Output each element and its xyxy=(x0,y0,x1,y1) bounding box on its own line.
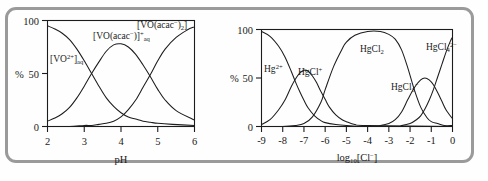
species-text-hgcl3-base: HgCl xyxy=(391,82,412,92)
species-text-vo2plus-base: [VO xyxy=(50,54,67,64)
x-axis-title-close: ] xyxy=(374,152,378,163)
xtick-label-3: 3 xyxy=(82,136,87,147)
curve-hgcl2 xyxy=(262,31,453,127)
chart-panel-vanadium: 100 50 0 % 2 3 4 5 6 pH [VO xyxy=(0,0,244,181)
species-text-hgcl2-sub: 2 xyxy=(381,48,384,55)
species-label-hgcl2: HgCl2 xyxy=(360,44,384,55)
ytick-label-50: 50 xyxy=(29,69,40,80)
ytick-label-100: 100 xyxy=(237,25,253,36)
xtick-label--6: -6 xyxy=(321,135,330,146)
xtick-label--7: -7 xyxy=(300,135,309,146)
ytick-label-0: 0 xyxy=(34,122,39,133)
x-axis-title: log10[Cl−] xyxy=(337,152,378,165)
species-label-vo-acac-2: [VO(acac−)2] xyxy=(137,19,187,32)
ytick-label-0: 0 xyxy=(248,122,253,133)
xtick-label--3: -3 xyxy=(384,135,393,146)
species-text-hgcl4-base: HgCl xyxy=(426,42,447,52)
species-text-hgcl2-base: HgCl xyxy=(360,44,381,54)
species-text-hgcl4-sup: 2− xyxy=(450,41,457,48)
species-text-hgcl3-sup: − xyxy=(415,81,419,88)
species-text-hg2plus-sup: 2+ xyxy=(276,63,283,70)
curve-vo-acac-2 xyxy=(48,27,195,127)
vanadium-speciation-plot: 100 50 0 % 2 3 4 5 6 pH [VO xyxy=(0,0,244,181)
species-label-hgclplus: HgCl+ xyxy=(298,66,323,77)
x-axis-title: pH xyxy=(115,154,128,165)
chart-panel-mercury: 100 50 0 % -9-8-7-6-5-4-3-2-10 log10[Cl−… xyxy=(230,0,488,181)
xtick-label-0: 0 xyxy=(450,135,455,146)
xtick-label--8: -8 xyxy=(278,135,287,146)
species-label-hg2plus: Hg2+ xyxy=(264,63,283,74)
x-tick-group xyxy=(262,127,453,133)
species-text-acac2-base: [VO(acac xyxy=(137,20,174,31)
xtick-label--2: -2 xyxy=(406,135,415,146)
xtick-label--4: -4 xyxy=(363,135,372,146)
xtick-label-4: 4 xyxy=(118,136,124,147)
ytick-label-50: 50 xyxy=(243,73,254,84)
x-tick-label-group: -9-8-7-6-5-4-3-2-10 xyxy=(257,135,455,146)
mercury-speciation-plot: 100 50 0 % -9-8-7-6-5-4-3-2-10 log10[Cl−… xyxy=(230,0,488,181)
x-axis-title-base: log xyxy=(337,152,351,163)
xtick-label--1: -1 xyxy=(427,135,436,146)
species-label-hgcl3minus: HgCl3− xyxy=(391,81,419,94)
xtick-label--5: -5 xyxy=(342,135,351,146)
curve-hgcl3minus xyxy=(262,78,453,127)
x-axis-title-rest: [Cl xyxy=(357,152,371,163)
xtick-label-6: 6 xyxy=(192,136,197,147)
species-text-acac2-tail2: ] xyxy=(184,20,187,30)
species-text-hgclplus-base: HgCl xyxy=(298,67,319,77)
speciation-figure: 100 50 0 % 2 3 4 5 6 pH [VO xyxy=(0,0,488,181)
species-text-acacplus-base: [VO(acac xyxy=(93,31,130,42)
xtick-label-5: 5 xyxy=(155,136,160,147)
y-axis-title: % xyxy=(15,69,24,80)
xtick-label-2: 2 xyxy=(45,136,50,147)
y-axis-title: % xyxy=(230,73,239,84)
species-text-hgclplus-sup: + xyxy=(319,66,323,73)
species-text-hg2plus-base: Hg xyxy=(264,64,276,74)
species-text-vo2plus-sub: aq xyxy=(77,58,84,65)
ytick-label-100: 100 xyxy=(23,16,39,27)
species-label-vo2plus: [VO2+]aq xyxy=(50,53,84,66)
species-label-vo-acac-plus: [VO(acac−)]+aq xyxy=(93,30,151,43)
species-text-acacplus-sub: aq xyxy=(144,35,151,42)
xtick-label--9: -9 xyxy=(257,135,266,146)
